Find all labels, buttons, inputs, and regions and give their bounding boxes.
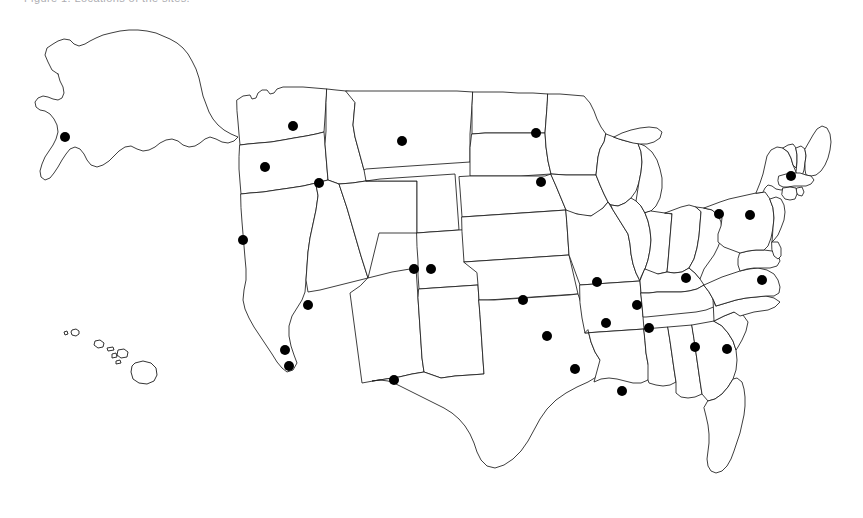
state-arizona xyxy=(350,268,424,383)
marker-dot xyxy=(644,323,654,333)
marker-dot xyxy=(681,273,691,283)
marker-dot xyxy=(714,209,724,219)
hawaii-molokai xyxy=(107,347,114,351)
hawaii-niihau xyxy=(64,331,68,335)
state-oklahoma xyxy=(464,255,578,300)
hawaii-kahoolawe xyxy=(116,360,121,364)
marker-dot xyxy=(690,342,700,352)
marker-dot xyxy=(617,386,627,396)
marker-dot xyxy=(397,136,407,146)
hawaii-oahu xyxy=(94,340,104,348)
marker-dot xyxy=(409,264,419,274)
marker-dot xyxy=(426,264,436,274)
marker-dot xyxy=(260,162,270,172)
state-massachusetts xyxy=(778,173,814,187)
state-montana xyxy=(346,91,473,170)
marker-dot xyxy=(542,331,552,341)
marker-dot xyxy=(570,364,580,374)
marker-dot xyxy=(786,171,796,181)
state-north-dakota xyxy=(472,92,548,134)
state-south-dakota xyxy=(470,133,551,176)
marker-dot xyxy=(389,375,399,385)
continental-us xyxy=(237,87,831,473)
state-kansas xyxy=(462,210,569,262)
marker-dot xyxy=(280,345,290,355)
state-minnesota xyxy=(545,94,606,175)
hawaii-lanai xyxy=(112,353,117,358)
alaska-outline xyxy=(35,30,238,180)
marker-dot xyxy=(238,235,248,245)
us-map xyxy=(0,0,863,518)
marker-dot xyxy=(518,295,528,305)
map-figure: Figure 1. Locations of the sites. xyxy=(0,0,863,518)
hawaii-inset xyxy=(64,329,157,384)
state-connecticut xyxy=(782,187,797,200)
marker-dot xyxy=(303,300,313,310)
alaska-inset xyxy=(35,30,238,180)
hawaii-bigisland xyxy=(131,361,157,384)
marker-dot xyxy=(314,178,324,188)
marker-dot xyxy=(60,132,70,142)
marker-dot xyxy=(601,318,611,328)
marker-dot xyxy=(757,275,767,285)
hawaii-kauai xyxy=(71,329,79,336)
state-new-mexico xyxy=(418,285,484,378)
state-rhode-island xyxy=(796,187,804,196)
marker-dot xyxy=(745,210,755,220)
state-maine xyxy=(805,126,831,176)
marker-dot xyxy=(284,361,294,371)
marker-dot xyxy=(288,121,298,131)
marker-dot xyxy=(722,344,732,354)
state-nebraska xyxy=(459,174,566,217)
marker-dot xyxy=(632,300,642,310)
marker-dot xyxy=(592,277,602,287)
marker-dot xyxy=(531,128,541,138)
marker-dot xyxy=(536,177,546,187)
hawaii-maui xyxy=(117,349,128,358)
